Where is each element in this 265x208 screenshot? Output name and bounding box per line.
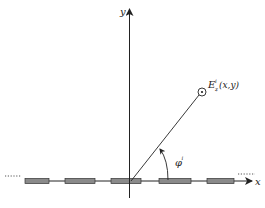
incidence-line [131, 95, 199, 181]
strip [111, 179, 141, 184]
angle-arc [160, 149, 168, 180]
strip [159, 179, 191, 184]
field-subscript: z [214, 86, 218, 92]
field-superscript: i [215, 78, 217, 84]
diagram-canvas: y x E i z (x,y) φ i [0, 0, 265, 208]
y-axis-label: y [119, 6, 126, 17]
field-label: E i z (x,y) [207, 78, 240, 92]
strip [207, 179, 234, 184]
angle-label: φ i [175, 155, 184, 168]
strip [65, 179, 95, 184]
x-axis-label: x [255, 176, 261, 187]
angle-superscript: i [182, 155, 184, 161]
field-args: (x,y) [219, 80, 240, 90]
strip [25, 179, 49, 184]
field-point-icon [198, 88, 206, 96]
